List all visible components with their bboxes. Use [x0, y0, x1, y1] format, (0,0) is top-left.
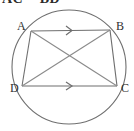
vertex-label-a: A	[17, 19, 26, 33]
segment-bc	[110, 30, 117, 86]
circumscribed-circle	[12, 10, 126, 124]
vertex-label-c: C	[121, 81, 129, 95]
geometry-figure: AC = BD A B C D	[0, 0, 134, 131]
diagonal-bd	[22, 30, 110, 86]
vertex-label-b: B	[116, 19, 124, 33]
diagram-canvas: A B C D	[0, 0, 134, 131]
vertex-label-d: D	[10, 81, 19, 95]
diagonal-ac	[31, 31, 117, 86]
segment-ad	[22, 31, 31, 86]
